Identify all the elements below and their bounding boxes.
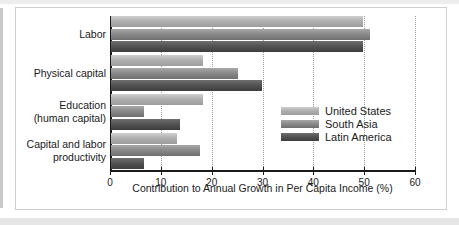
- x-tick-60: [415, 167, 416, 175]
- category-label: Capital and laborproductivity: [27, 138, 106, 163]
- x-tick-20: [212, 167, 213, 175]
- x-tick-30: [263, 167, 264, 175]
- legend-item-latin-america: Latin America: [281, 131, 399, 143]
- legend-swatch-icon-south-asia: [281, 120, 319, 128]
- chart-page: LaborPhysical capitalEducation(human cap…: [0, 0, 459, 225]
- category-axis-labels: LaborPhysical capitalEducation(human cap…: [18, 16, 106, 171]
- legend-item-united-states: United States: [281, 105, 399, 117]
- bar: [111, 158, 144, 169]
- bar: [111, 119, 180, 130]
- category-label-line: Education: [34, 99, 106, 112]
- bar: [111, 16, 363, 27]
- bar: [111, 133, 177, 144]
- scan-edge-left: [0, 8, 3, 208]
- legend-label-latin-america: Latin America: [325, 131, 392, 143]
- bar: [111, 80, 262, 91]
- bar: [111, 29, 370, 40]
- category-label: Education(human capital): [34, 99, 106, 124]
- x-tick-50: [364, 167, 365, 175]
- gridline-60: [415, 16, 417, 171]
- x-axis-title: Contribution to Annual Growth in Per Cap…: [110, 182, 415, 194]
- legend-label-united-states: United States: [325, 105, 391, 117]
- bar: [111, 106, 144, 117]
- category-label-line: Labor: [79, 28, 106, 41]
- bar: [111, 41, 363, 52]
- legend-swatch-icon-latin-america: [281, 133, 319, 141]
- category-label: Physical capital: [34, 67, 106, 80]
- category-label-line: Physical capital: [34, 67, 106, 80]
- scan-edge-bottom: [0, 218, 459, 225]
- legend-swatch-icon-united-states: [281, 107, 319, 115]
- chart-legend: United States South Asia Latin America: [281, 105, 399, 144]
- category-label-line: (human capital): [34, 112, 106, 125]
- bar: [111, 55, 203, 66]
- legend-label-south-asia: South Asia: [325, 118, 378, 130]
- category-label: Labor: [79, 28, 106, 41]
- category-label-line: productivity: [27, 151, 106, 164]
- bar: [111, 94, 203, 105]
- bar: [111, 68, 238, 79]
- category-label-line: Capital and labor: [27, 138, 106, 151]
- x-tick-40: [313, 167, 314, 175]
- scan-edge-top: [0, 0, 459, 4]
- x-tick-10: [161, 167, 162, 175]
- bar: [111, 145, 200, 156]
- x-tick-0: [110, 167, 111, 175]
- plot-area: 0102030405060: [110, 16, 415, 171]
- legend-item-south-asia: South Asia: [281, 118, 399, 130]
